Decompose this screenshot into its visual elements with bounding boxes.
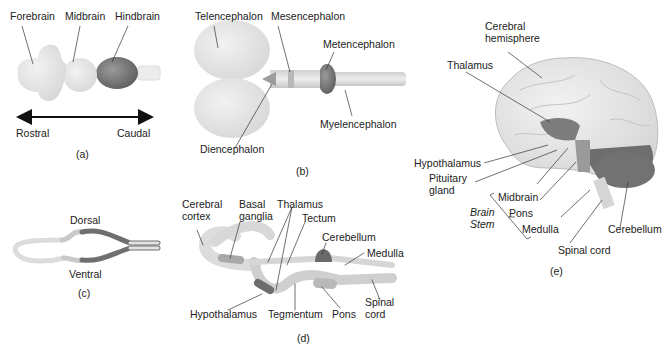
label-cerebellum-e: Cerebellum (608, 223, 662, 235)
panel-d-drawing (197, 207, 392, 310)
label-pons-e: Pons (509, 207, 533, 219)
panel-c-drawing (15, 231, 158, 261)
label-basal-ganglia-2: ganglia (239, 210, 273, 222)
label-tectum: Tectum (302, 212, 336, 224)
label-tegmentum: Tegmentum (268, 308, 323, 320)
label-caudal: Caudal (117, 127, 150, 139)
label-mesencephalon: Mesencephalon (271, 10, 345, 22)
label-dorsal: Dorsal (70, 214, 100, 226)
caption-a: (a) (76, 148, 89, 160)
label-cerebral-hemisphere-1: Cerebral (485, 20, 525, 32)
label-midbrain-e: Midbrain (498, 191, 538, 203)
label-cerebral-cortex-2: cortex (182, 210, 211, 222)
caption-d: (d) (297, 332, 310, 344)
label-medulla-d: Medulla (367, 247, 404, 259)
label-myelencephalon: Myelencephalon (320, 118, 396, 130)
label-ventral: Ventral (69, 268, 102, 280)
label-hypothalamus-d: Hypothalamus (190, 308, 257, 320)
label-brain-stem-1: Brain (470, 206, 495, 218)
label-hypothalamus-e: Hypothalamus (414, 157, 481, 169)
label-brain-stem-2: Stem (470, 218, 495, 230)
caption-b: (b) (296, 165, 309, 177)
label-metencephalon: Metencephalon (323, 38, 395, 50)
caption-e: (e) (550, 265, 563, 277)
label-thalamus-e: Thalamus (447, 59, 493, 71)
label-pituitary-gland-1: Pituitary (429, 172, 467, 184)
label-diencephalon: Diencephalon (200, 143, 264, 155)
label-thalamus-d: Thalamus (277, 198, 323, 210)
label-basal-ganglia-1: Basal (239, 198, 265, 210)
diagram-drawing (0, 0, 669, 349)
label-forebrain: Forebrain (10, 10, 55, 22)
caption-c: (c) (78, 287, 90, 299)
label-spinal-cord-d-2: cord (365, 308, 385, 320)
label-medulla-e: Medulla (522, 223, 559, 235)
label-telencephalon: Telencephalon (195, 10, 263, 22)
label-pituitary-gland-2: gland (429, 184, 455, 196)
label-hindbrain: Hindbrain (115, 10, 160, 22)
label-rostral: Rostral (16, 127, 49, 139)
label-spinal-cord-e: Spinal cord (558, 244, 611, 256)
label-midbrain: Midbrain (65, 10, 105, 22)
label-pons-d: Pons (332, 308, 356, 320)
label-cerebral-hemisphere-2: hemisphere (485, 32, 540, 44)
label-cerebellum-d: Cerebellum (322, 231, 376, 243)
panel-a-drawing (18, 26, 160, 117)
label-spinal-cord-d-1: Spinal (365, 296, 394, 308)
label-cerebral-cortex-1: Cerebral (182, 198, 222, 210)
